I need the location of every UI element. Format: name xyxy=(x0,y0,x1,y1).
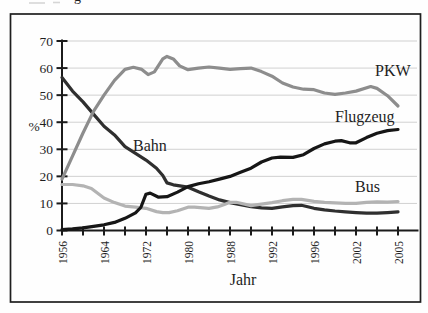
scanned-chart-figure: g010203040506070195619641972198019881992… xyxy=(0,0,428,313)
y-tick-label-50: 50 xyxy=(40,88,54,103)
series-label-bahn: Bahn xyxy=(133,137,167,154)
x-tick-label-2005: 2005 xyxy=(393,241,405,264)
y-tick-label-30: 30 xyxy=(40,142,54,157)
y-tick-label-70: 70 xyxy=(40,34,54,49)
x-tick-label-1996: 1996 xyxy=(309,241,321,264)
y-tick-label-60: 60 xyxy=(40,61,54,76)
x-tick-label-1992: 1992 xyxy=(267,241,279,264)
x-tick-label-2002: 2002 xyxy=(351,241,363,264)
x-axis-title: Jahr xyxy=(230,271,257,288)
line-chart: g010203040506070195619641972198019881992… xyxy=(0,0,428,313)
x-tick-label-1964: 1964 xyxy=(99,241,111,264)
cropped-caption-fragment: g xyxy=(74,0,81,4)
x-tick-label-1956: 1956 xyxy=(57,241,69,264)
series-label-bus: Bus xyxy=(355,178,380,195)
page-background xyxy=(0,0,428,313)
y-tick-label-0: 0 xyxy=(46,223,53,238)
y-tick-label-20: 20 xyxy=(40,169,54,184)
series-label-flugzeug: Flugzeug xyxy=(335,108,395,126)
x-tick-label-1972: 1972 xyxy=(141,241,153,264)
x-tick-label-1988: 1988 xyxy=(225,241,237,264)
series-label-pkw: PKW xyxy=(375,62,411,79)
y-axis-title: % xyxy=(28,119,39,134)
y-tick-label-10: 10 xyxy=(40,196,54,211)
y-tick-label-40: 40 xyxy=(40,115,54,130)
x-tick-label-1980: 1980 xyxy=(183,241,195,264)
